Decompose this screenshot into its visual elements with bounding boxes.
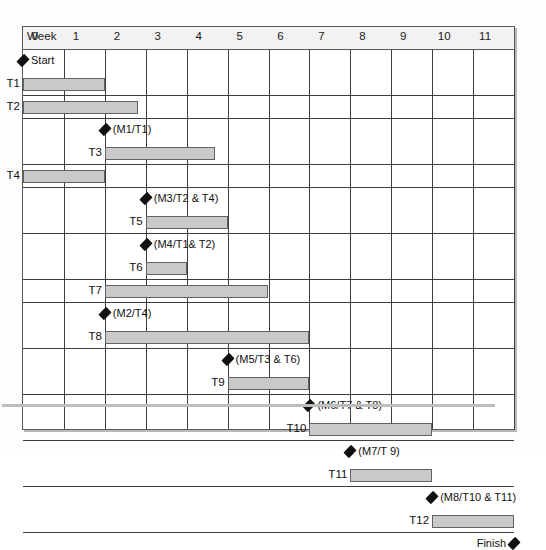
task-bar-T12[interactable] (432, 515, 514, 528)
week-tick-6: 6 (269, 30, 293, 42)
frame-shadow (2, 404, 495, 407)
task-bar-T5[interactable] (146, 216, 228, 229)
rowline (23, 348, 514, 349)
week-tick-0: 0 (23, 30, 47, 42)
milestone-marker[interactable] (344, 445, 357, 458)
rowline (23, 118, 514, 119)
week-tick-1: 1 (64, 30, 88, 42)
milestone-label: Start (31, 54, 54, 66)
gridline-week-10 (432, 50, 433, 429)
task-bar-T7[interactable] (105, 285, 269, 298)
gridline-week-6 (269, 50, 270, 429)
week-tick-2: 2 (105, 30, 129, 42)
milestone-label: (M3/T2 & T4) (154, 192, 219, 204)
week-tick-11: 11 (473, 30, 497, 42)
task-bar-T9[interactable] (228, 377, 310, 390)
rowline (23, 532, 514, 533)
task-bar-T6[interactable] (146, 262, 187, 275)
milestone-label: (M5/T3 & T6) (236, 353, 301, 365)
week-tick-9: 9 (391, 30, 415, 42)
task-bar-T10[interactable] (309, 423, 432, 436)
gridline-week-11 (473, 50, 474, 429)
milestone-label: (M1/T1) (113, 123, 152, 135)
plot-area: StartT1T2(M1/T1)T3T4(M3/T2 & T4)T5(M4/T1… (23, 50, 514, 429)
task-label-T6: T6 (129, 261, 142, 273)
milestone-label: (M2/T4) (113, 307, 152, 319)
gridline-week-12 (514, 50, 515, 429)
task-label-T9: T9 (211, 376, 224, 388)
milestone-marker[interactable] (98, 307, 111, 320)
task-label-T1: T1 (7, 77, 20, 89)
week-tick-8: 8 (350, 30, 374, 42)
gridline-week-7 (309, 50, 310, 429)
milestone-marker[interactable] (98, 123, 111, 136)
rowline (23, 164, 514, 165)
rowline (23, 187, 514, 188)
milestone-label: (M7/T 9) (358, 445, 399, 457)
gridline-week-9 (391, 50, 392, 429)
task-label-T12: T12 (409, 514, 429, 526)
rowline (23, 440, 514, 441)
milestone-marker[interactable] (139, 192, 152, 205)
task-bar-T2[interactable] (23, 101, 138, 114)
rowline (23, 394, 514, 395)
task-label-T3: T3 (88, 146, 101, 158)
milestone-marker[interactable] (16, 54, 29, 67)
milestone-marker[interactable] (507, 537, 520, 550)
gridline-week-5 (228, 50, 229, 429)
milestone-label: Finish (477, 537, 506, 549)
milestone-marker[interactable] (425, 491, 438, 504)
task-label-T7: T7 (88, 284, 101, 296)
task-bar-T4[interactable] (23, 170, 105, 183)
week-tick-3: 3 (146, 30, 170, 42)
milestone-marker[interactable] (139, 238, 152, 251)
task-bar-T3[interactable] (105, 147, 215, 160)
milestone-label: (M8/T10 & T11) (440, 491, 516, 503)
task-bar-T8[interactable] (105, 331, 310, 344)
task-label-T8: T8 (88, 330, 101, 342)
task-label-T2: T2 (7, 100, 20, 112)
week-tick-5: 5 (228, 30, 252, 42)
task-label-T11: T11 (328, 468, 347, 480)
milestone-label: (M4/T1& T2) (154, 238, 216, 250)
week-axis-header: Week 01234567891011 (23, 27, 514, 50)
task-label-T5: T5 (129, 215, 142, 227)
task-label-T10: T10 (287, 422, 307, 434)
task-bar-T1[interactable] (23, 78, 105, 91)
week-tick-4: 4 (187, 30, 211, 42)
week-tick-7: 7 (309, 30, 333, 42)
week-tick-10: 10 (432, 30, 456, 42)
milestone-marker[interactable] (221, 353, 234, 366)
chart-frame: Week 01234567891011 StartT1T2(M1/T1)T3T4… (22, 26, 515, 430)
rowline (23, 279, 514, 280)
rowline (23, 486, 514, 487)
rowline (23, 302, 514, 303)
task-label-T4: T4 (7, 169, 20, 181)
rowline (23, 95, 514, 96)
rowline (23, 233, 514, 234)
task-bar-T11[interactable] (350, 469, 432, 482)
gridline-week-8 (350, 50, 351, 429)
